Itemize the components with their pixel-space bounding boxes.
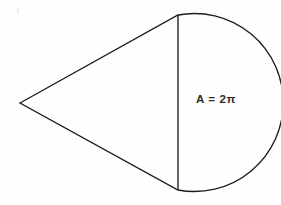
composite-region-outline [20,14,281,192]
geometry-figure: ⸮ A = 2π [0,0,281,205]
area-label: A = 2π [196,94,236,106]
figure-canvas [0,0,281,205]
